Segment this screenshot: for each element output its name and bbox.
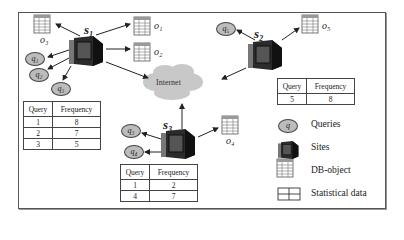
table-row: 58 — [278, 94, 355, 105]
query-bubble-q4: q₄ — [124, 145, 144, 159]
table-header: Frequency — [307, 79, 355, 94]
table-row: 18 — [24, 117, 101, 128]
query-bubble-q3-s3: q₃ — [121, 124, 141, 138]
legend-statistical-data: Statistical data — [311, 188, 367, 198]
query-bubble-q1: q₁ — [25, 52, 45, 66]
internet-label: Internet — [156, 78, 181, 87]
legend-db-object: DB-object — [311, 165, 351, 175]
table-header: Query — [24, 102, 53, 117]
query-bubble-icon: q — [278, 119, 298, 133]
frequency-table-s1: QueryFrequency 18 27 35 — [23, 101, 101, 150]
query-bubble-q3: q₃ — [51, 82, 71, 96]
legend-queries: Queries — [311, 119, 341, 129]
object-label-o5: o₅ — [322, 20, 330, 31]
site-label-s2: s₂ — [254, 26, 264, 42]
table-row: 12 — [121, 180, 198, 191]
frequency-table-s3: QueryFrequency 12 47 — [120, 164, 198, 202]
table-header: Frequency — [53, 102, 101, 117]
site-label-s1: s₁ — [84, 22, 94, 38]
object-label-o2: o₂ — [154, 46, 162, 57]
table-header: Query — [121, 165, 150, 180]
frequency-table-s2: QueryFrequency 58 — [277, 78, 355, 105]
table-row: 27 — [24, 128, 101, 139]
query-bubble-q2: q₂ — [29, 68, 49, 82]
table-row: 35 — [24, 139, 101, 150]
site-label-s3: s₃ — [163, 117, 173, 133]
object-label-o1: o₁ — [154, 20, 162, 31]
query-bubble-q5: q₅ — [216, 22, 236, 36]
table-header: Query — [278, 79, 307, 94]
table-header: Frequency — [150, 165, 198, 180]
table-row: 47 — [121, 191, 198, 202]
object-label-o4: o₄ — [226, 135, 234, 146]
object-label-o3: o₃ — [40, 34, 48, 45]
legend-sites: Sites — [311, 142, 329, 152]
